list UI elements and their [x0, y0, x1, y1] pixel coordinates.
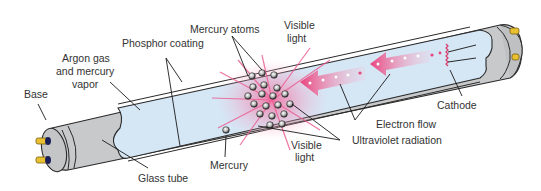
label-argon-1: Argon gas — [62, 52, 110, 64]
label-argon-2: and mercury — [56, 65, 115, 77]
label-cathode: Cathode — [437, 99, 477, 111]
label-ultraviolet: Ultraviolet radiation — [352, 134, 442, 146]
label-electron-flow: Electron flow — [376, 118, 437, 130]
label-argon-3: vapor — [72, 78, 99, 90]
label-visible-bottom-1: Visible — [291, 139, 322, 151]
label-visible-top-2: light — [287, 32, 306, 44]
label-glass-tube: Glass tube — [138, 172, 188, 184]
fluorescent-lamp-diagram: Base Argon gas and mercury vapor Phospho… — [0, 0, 541, 191]
label-phosphor: Phosphor coating — [122, 37, 204, 49]
label-visible-top-1: Visible — [284, 19, 315, 31]
label-mercury-atoms: Mercury atoms — [190, 23, 259, 35]
label-mercury: Mercury — [210, 159, 249, 171]
label-base: Base — [24, 88, 48, 100]
label-visible-bottom-2: light — [295, 151, 314, 163]
